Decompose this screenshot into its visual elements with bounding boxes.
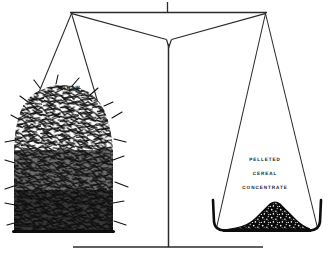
beam-arm-left xyxy=(71,13,167,39)
right-pan-label-line1: PELLETED xyxy=(249,157,281,162)
balance-scale-diagram xyxy=(0,0,333,260)
figure-root: STRAW PELLETED CEREAL CONCENTRATE xyxy=(0,0,333,260)
beam-arm-right xyxy=(172,13,267,39)
right-suspension-cord-outer xyxy=(266,14,318,229)
beam-center-notch xyxy=(167,40,172,48)
right-pan-label-line2: CEREAL xyxy=(253,171,278,176)
right-suspension-cord-inner xyxy=(217,14,266,229)
right-pan-label-line3: CONCENTRATE xyxy=(242,185,287,190)
right-pan-pellets xyxy=(213,196,321,234)
straw-mass xyxy=(10,80,120,236)
scale-beam xyxy=(70,13,267,47)
left-pan-straw xyxy=(5,75,128,236)
right-pan-suspension xyxy=(217,14,318,229)
left-pan-label-straw: STRAW xyxy=(59,85,80,90)
